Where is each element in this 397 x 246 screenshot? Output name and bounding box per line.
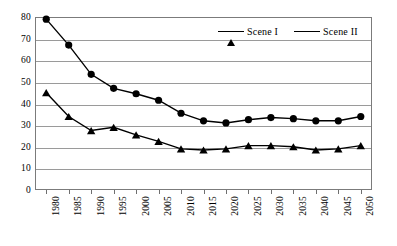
x-axis-tick-label: 2040 [320,196,330,238]
x-axis-tick [46,190,47,194]
circle-marker-icon [200,117,207,124]
legend-swatch-triangle [218,27,244,37]
x-axis-tick [136,190,137,194]
x-axis-tick [204,190,205,194]
legend-entry-scene-ii: Scene II [294,26,358,37]
x-axis-tick [293,190,294,194]
x-axis-tick-label: 2030 [275,196,285,238]
legend-label-scene-ii: Scene II [323,26,358,37]
circle-marker-icon [222,119,229,126]
circle-marker-icon [312,117,319,124]
x-axis-tick-label: 1995 [118,196,128,238]
circle-marker-icon [290,115,297,122]
x-axis-tick [91,190,92,194]
legend-swatch-circle [294,27,320,37]
x-axis-tick-label: 1990 [96,196,106,238]
x-axis-labels: 1980198519901995200020052010201520202025… [35,196,372,242]
y-axis-tick-label: 0 [5,185,31,195]
x-axis-tick [114,190,115,194]
x-axis-tick-label: 2010 [186,196,196,238]
triangle-marker-icon [227,28,235,46]
x-axis-tick-label: 2020 [230,196,240,238]
y-axis-tick-label: 20 [5,142,31,152]
y-axis-tick-label: 40 [5,99,31,109]
x-axis-tick [69,190,70,194]
x-axis-tick [316,190,317,194]
x-axis-tick-label: 1980 [51,196,61,238]
circle-marker-icon [177,110,184,117]
x-axis-tick [226,190,227,194]
x-axis-tick-label: 2000 [141,196,151,238]
y-axis-tick-label: 80 [5,12,31,22]
legend-label-scene-i: Scene I [247,26,278,37]
x-axis-tick-label: 1985 [73,196,83,238]
x-axis-tick-label: 2050 [365,196,375,238]
x-axis-tick-label: 2015 [208,196,218,238]
y-axis-tick-label: 70 [5,34,31,44]
circle-marker-icon [335,117,342,124]
triangle-marker-icon [42,89,50,96]
circle-marker-icon [267,114,274,121]
circle-marker-icon [43,16,50,23]
x-axis-tick-label: 2005 [163,196,173,238]
x-axis-tick [159,190,160,194]
legend-entry-scene-i: Scene I [218,26,278,37]
x-axis-tick [361,190,362,194]
circle-marker-icon [65,42,72,49]
circle-marker-icon [110,85,117,92]
triangle-marker-icon [132,131,140,138]
x-axis-tick [181,190,182,194]
circle-marker-icon [88,71,95,78]
triangle-marker-icon [154,138,162,145]
x-axis-tick [338,190,339,194]
y-axis-tick-label: 60 [5,55,31,65]
x-axis-tick-label: 2025 [253,196,263,238]
series-layer [35,17,372,190]
line-chart: 01020304050607080 1980198519901995200020… [0,0,397,246]
x-axis-tick [271,190,272,194]
circle-marker-icon [155,97,162,104]
y-axis-tick-label: 30 [5,120,31,130]
y-axis-tick-label: 50 [5,77,31,87]
chart-legend: Scene I Scene II [218,26,358,37]
circle-marker-icon [133,90,140,97]
x-axis-ticks [35,190,372,195]
x-axis-tick [248,190,249,194]
x-axis-tick-label: 2035 [298,196,308,238]
circle-marker-icon [245,116,252,123]
x-axis-tick-label: 2045 [343,196,353,238]
circle-marker-icon [357,113,364,120]
y-axis-tick-label: 10 [5,163,31,173]
